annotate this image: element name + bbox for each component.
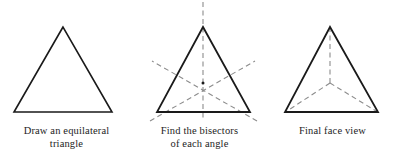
panel-draw-equilateral-triangle: Draw an equilateral triangle: [0, 0, 133, 164]
caption-line-1: Final face view: [266, 124, 399, 137]
panel-find-the-bisectors: Find the bisectors of each angle: [133, 0, 266, 164]
drawing-draw-equilateral-triangle: [0, 0, 133, 124]
caption-final-face-view: Final face view: [266, 124, 399, 137]
caption-line-1: Draw an equilateral: [0, 124, 133, 137]
dashed-centroid-spokes: [287, 29, 376, 111]
caption-line-1: Find the bisectors: [133, 124, 266, 137]
dashed-bisector-lines: [150, 2, 257, 121]
drawing-find-the-bisectors: [133, 0, 266, 124]
solid-triangle-outline: [285, 27, 378, 112]
drawing-final-face-view: [266, 0, 399, 124]
panel-final-face-view: Final face view: [266, 0, 399, 164]
caption-line-2: triangle: [0, 137, 133, 150]
caption-find-the-bisectors: Find the bisectors of each angle: [133, 124, 266, 150]
caption-line-2: of each angle: [133, 137, 266, 150]
equilateral-triangle-construction-figure: Draw an equilateral triangle Find the bi…: [0, 0, 399, 164]
solid-triangle-outline: [14, 27, 112, 112]
caption-draw-equilateral-triangle: Draw an equilateral triangle: [0, 124, 133, 150]
incenter-mark: [202, 82, 205, 85]
